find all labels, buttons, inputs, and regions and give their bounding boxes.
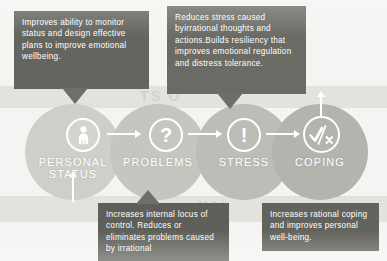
arrow-stress-to-coping <box>266 133 299 135</box>
callout-pointer <box>217 93 243 109</box>
callout-text: Reduces stress caused byirrational thoug… <box>175 12 298 69</box>
problems-callout: Increases internal locus of control. Red… <box>98 203 229 261</box>
arrow-up-into-coping <box>320 96 322 118</box>
callout-pointer <box>136 190 160 204</box>
check-slash-x-icon <box>303 116 340 153</box>
callout-text: Increases rational coping and improves p… <box>270 209 371 243</box>
arrow-status-to-problems <box>107 133 140 135</box>
infographic-canvas: TS O NAL ? ! PERSONAL STATUS PROBLEMS ST… <box>0 0 387 261</box>
stage-circle-problems <box>110 104 206 200</box>
callout-pointer <box>62 88 88 104</box>
coping-callout: Increases rational coping and improves p… <box>262 203 379 251</box>
person-icon <box>66 118 100 152</box>
stage-label-line: STATUS <box>23 168 123 180</box>
question-mark-icon: ? <box>149 118 183 152</box>
stage-label-problems: PROBLEMS <box>108 156 208 168</box>
callout-text: Increases internal locus of control. Red… <box>106 209 221 255</box>
stress-callout: Reduces stress caused byirrational thoug… <box>167 6 306 94</box>
exclamation-mark-icon: ! <box>227 118 261 152</box>
personal-status-callout: Improves ability to monitor status and d… <box>14 11 149 89</box>
question-mark-glyph: ? <box>160 125 172 145</box>
exclamation-mark-glyph: ! <box>241 125 248 145</box>
arrow-problems-to-stress <box>188 133 221 135</box>
stage-label-coping: COPING <box>270 156 370 168</box>
callout-text: Improves ability to monitor status and d… <box>22 17 141 63</box>
